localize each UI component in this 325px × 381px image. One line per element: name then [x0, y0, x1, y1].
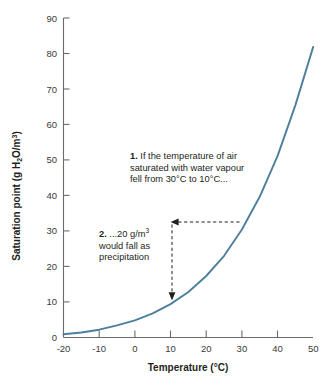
x-tick-label-40: 40	[272, 343, 283, 354]
y-axis-title-pre: Saturation point (g H	[11, 162, 22, 261]
callout-2-text-line3: precipitation	[99, 252, 149, 262]
horizontal-arrow-head	[171, 219, 179, 226]
callout-2-number: 2.	[99, 229, 107, 239]
x-tick-label-20: 20	[201, 343, 212, 354]
x-tick-label--20: -20	[57, 343, 71, 354]
x-tick-label-30: 30	[237, 343, 248, 354]
y-tick-label-50: 50	[46, 154, 57, 165]
annotation-arrows	[169, 219, 240, 301]
x-tick-label--10: -10	[92, 343, 106, 354]
y-tick-label-90: 90	[46, 13, 57, 24]
y-tick-label-20: 20	[46, 261, 57, 272]
y-axis-title-post: )	[11, 131, 22, 134]
x-tick-label-50: 50	[308, 343, 319, 354]
saturation-curve	[64, 47, 314, 334]
vertical-arrow-head	[169, 292, 176, 300]
callout-1-text: If the temperature of air saturated with…	[130, 151, 244, 184]
x-tick-label-10: 10	[165, 343, 176, 354]
y-tick-label-10: 10	[46, 296, 57, 307]
chart-svg: 90 80 70 60 50 40 30 20 10 0 -20 -10 0 1…	[0, 0, 325, 381]
y-axis-title: Saturation point (g H2O/m3)	[11, 131, 24, 261]
callout-2-text-mid: ...20 g/m	[107, 229, 146, 239]
saturation-point-chart: 90 80 70 60 50 40 30 20 10 0 -20 -10 0 1…	[0, 0, 325, 381]
callout-1: 1. If the temperature of air saturated w…	[130, 151, 248, 186]
callout-2: 2. ...20 g/m3would fall asprecipitation	[99, 229, 169, 264]
y-axis-ticks	[64, 18, 70, 302]
y-tick-label-30: 30	[46, 225, 57, 236]
y-axis-tick-labels: 90 80 70 60 50 40 30 20 10 0	[46, 13, 57, 343]
x-axis-ticks	[99, 331, 277, 338]
callout-2-exponent: 3	[146, 227, 150, 234]
y-tick-label-40: 40	[46, 190, 57, 201]
x-tick-label-0: 0	[132, 343, 137, 354]
y-tick-label-70: 70	[46, 84, 57, 95]
callout-1-number: 1.	[130, 151, 138, 161]
callout-2-text-line2: would fall as	[99, 241, 150, 251]
x-axis-title: Temperature (°C)	[148, 362, 229, 373]
y-tick-label-0: 0	[52, 332, 57, 343]
x-axis-tick-labels: -20 -10 0 10 20 30 40 50	[57, 343, 319, 354]
y-axis-title-mid: O/m	[11, 138, 22, 158]
y-axis-title-group: Saturation point (g H2O/m3)	[11, 131, 24, 261]
y-tick-label-80: 80	[46, 48, 57, 59]
y-tick-label-60: 60	[46, 119, 57, 130]
